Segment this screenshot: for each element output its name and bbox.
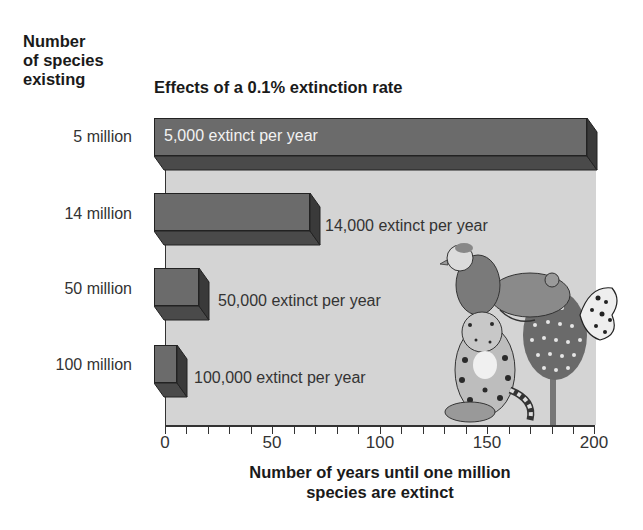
y-axis-title-line: of species [23,51,104,70]
category-label: 50 million [64,280,132,298]
x-tick [552,425,553,434]
bar-shape [154,345,194,401]
category-label: 14 million [64,205,132,223]
x-tick [208,425,209,434]
x-tick [444,425,445,434]
x-tick-label: 50 [263,433,282,453]
x-tick [251,425,252,434]
category-label: 5 million [73,128,132,146]
bar-shape [154,193,324,249]
x-tick [315,425,316,434]
x-tick [401,425,402,434]
y-axis-title-line: existing [23,70,104,89]
x-tick [294,425,295,434]
x-tick [337,425,338,434]
y-axis-title-line: Number [23,32,104,51]
x-tick [530,425,531,434]
bar-label: 50,000 extinct per year [218,292,381,310]
bird-icon [440,243,500,315]
x-axis-title-line: Number of years until one million [165,462,595,482]
x-axis-title: Number of years until one million specie… [165,462,595,502]
x-tick-label: 200 [580,433,608,453]
x-tick-label: 0 [160,433,169,453]
x-tick [229,425,230,434]
bar-label: 14,000 extinct per year [325,217,488,235]
animals-illustration [440,240,620,425]
x-tick [423,425,424,434]
x-tick-label: 150 [473,433,501,453]
x-tick [509,425,510,434]
bar-shape [154,268,214,324]
bar-label: 5,000 extinct per year [164,127,318,145]
x-tick [358,425,359,434]
category-label: 100 million [56,356,132,374]
x-tick-label: 100 [366,433,394,453]
x-tick [466,425,467,434]
x-axis-title-line: species are extinct [165,482,595,502]
chart-title: Effects of a 0.1% extinction rate [154,78,403,97]
y-axis-title: Number of species existing [23,32,104,89]
x-tick [186,425,187,434]
bar-label: 100,000 extinct per year [194,369,366,387]
x-tick [573,425,574,434]
leopard-icon [445,312,531,422]
